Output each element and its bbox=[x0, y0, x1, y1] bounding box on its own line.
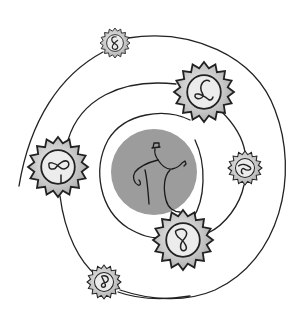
sun-right-icon bbox=[228, 151, 262, 185]
illustration-canvas bbox=[0, 0, 308, 326]
sun-bottom-center-icon bbox=[153, 210, 213, 270]
sun-top-icon bbox=[100, 28, 130, 58]
sun-bottom-left-icon bbox=[87, 265, 121, 299]
sun-left-icon bbox=[28, 137, 88, 197]
sun-upper-right-icon bbox=[174, 62, 234, 122]
center-disc bbox=[111, 129, 197, 215]
